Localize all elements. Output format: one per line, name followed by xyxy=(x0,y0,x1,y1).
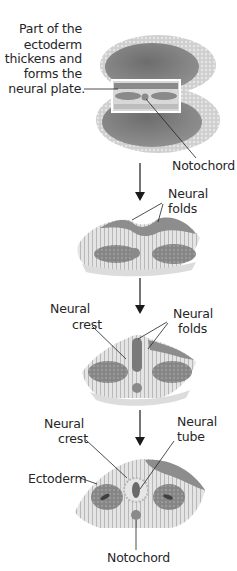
ectoderm-label: Ectoderm xyxy=(28,472,86,486)
arrow-down-icon xyxy=(135,163,145,201)
neural-plate-label-line4: forms the xyxy=(24,67,82,81)
arrow-down-icon xyxy=(135,410,145,446)
arrow-down-icon xyxy=(135,278,145,314)
neural-crest-label-line1: Neural xyxy=(50,302,90,316)
neural-plate-label-line3: thickens and xyxy=(5,52,82,66)
neural-crest-label-line2: crest xyxy=(72,318,102,332)
neural-folds-label-line2: folds xyxy=(168,202,197,216)
notochord-label-top: Notochord xyxy=(172,159,235,173)
neural-plate-label-line1: Part of the xyxy=(19,22,82,36)
embryo-illustration xyxy=(96,35,220,153)
neural-crest-label-line2-b: crest xyxy=(58,432,88,446)
neural-plate-label-line5: neural plate. xyxy=(8,82,85,96)
neural-folds-label-line1: Neural xyxy=(168,187,208,201)
neural-folds-cross-section xyxy=(78,217,201,276)
neural-plate-label-line2: ectoderm xyxy=(24,38,82,52)
neural-crest-label-line1-b: Neural xyxy=(44,417,84,431)
neural-tube-cross-section xyxy=(75,459,205,528)
neural-folds-leader-1 xyxy=(132,203,162,220)
notochord-label-bottom: Notochord xyxy=(107,551,170,565)
neural-tube-label-line2: tube xyxy=(177,430,205,444)
neural-crest-leader-2 xyxy=(86,440,127,478)
neural-folds-label-line1-b: Neural xyxy=(173,307,213,321)
neural-tube-label-line1: Neural xyxy=(177,415,217,429)
neural-folds-label-line2-b: folds xyxy=(178,322,207,336)
neural-crest-cross-section xyxy=(82,335,196,406)
